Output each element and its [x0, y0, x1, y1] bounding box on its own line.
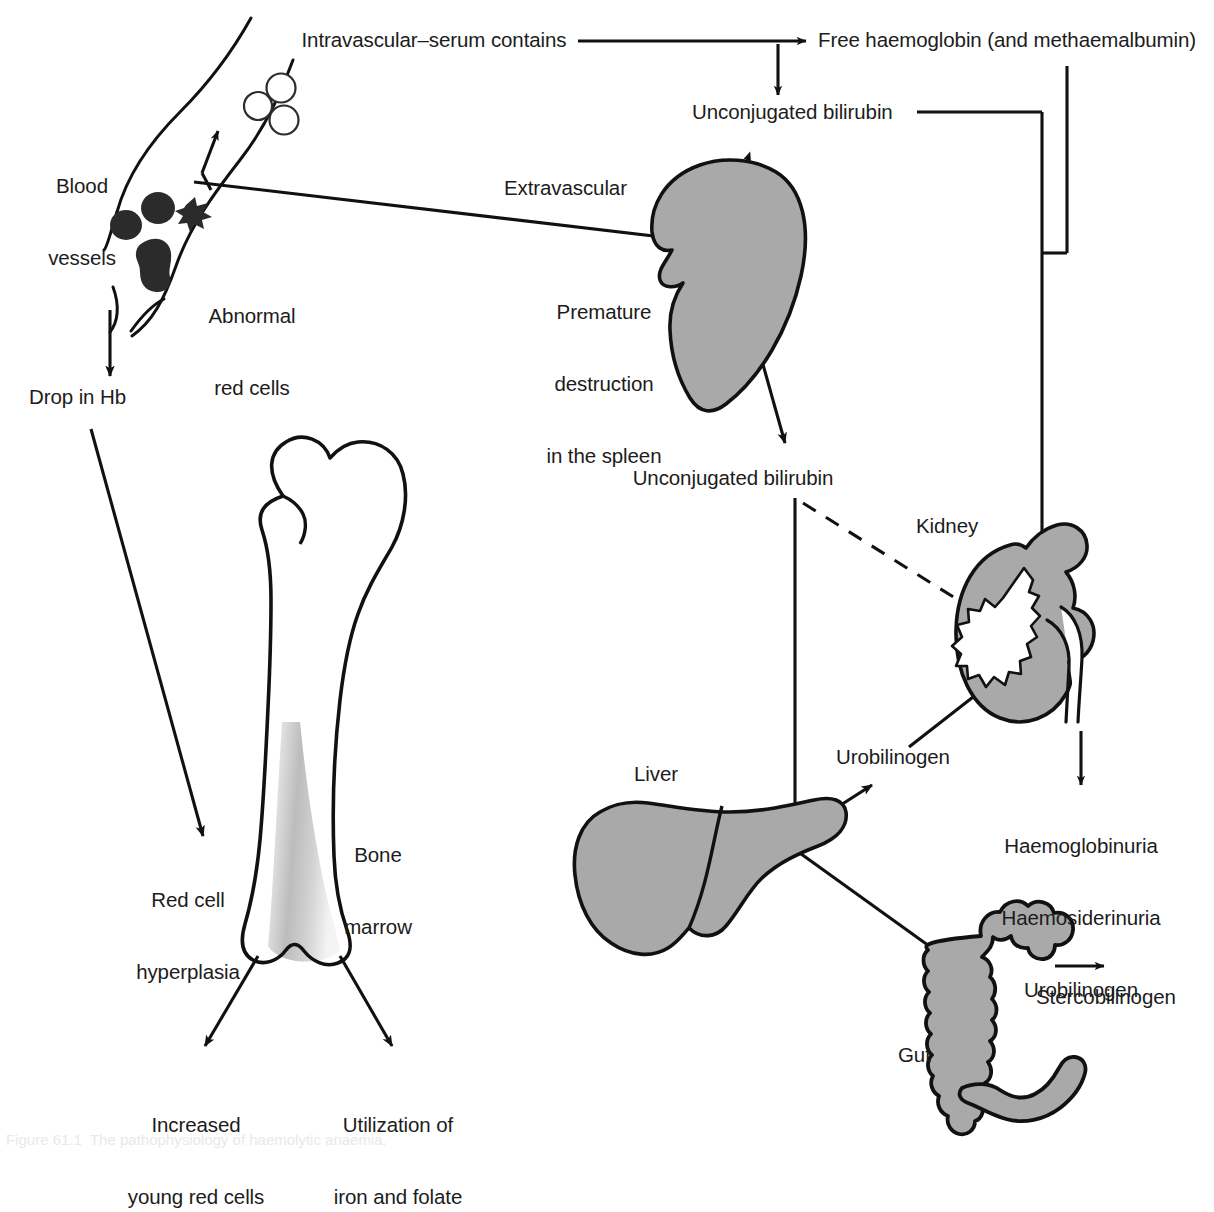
- abnormal-red-cells: [110, 192, 212, 292]
- abnormal-red-cell: [141, 192, 175, 224]
- spleen: [652, 160, 806, 411]
- label-utilization-iron-folate-line2: iron and folate: [334, 1185, 462, 1209]
- label-urobilinogen: Urobilinogen: [836, 745, 950, 769]
- label-red-cell-hyperplasia: Red cell hyperplasia: [136, 840, 240, 1032]
- label-urine-products-line2: Haemosiderinuria: [1001, 906, 1160, 930]
- label-bone-marrow-line2: marrow: [344, 915, 412, 939]
- label-unconjugated-bilirubin-top: Unconjugated bilirubin: [692, 100, 893, 124]
- label-drop-in-hb: Drop in Hb: [29, 385, 126, 409]
- label-blood-vessels-line2: vessels: [48, 246, 116, 270]
- kidney: [952, 524, 1094, 722]
- label-urine-products-line1: Haemoglobinuria: [1001, 834, 1160, 858]
- label-red-cell-hyperplasia-line1: Red cell: [136, 888, 240, 912]
- arrow-hb-to-red-cell-hyperplasia: [91, 429, 203, 836]
- label-urine-products: Haemoglobinuria Haemosiderinuria Urobili…: [1001, 786, 1160, 1050]
- femur-neck-notch: [283, 496, 305, 544]
- label-premature-destruction-line2: destruction: [547, 372, 662, 396]
- label-kidney: Kidney: [916, 514, 978, 538]
- label-blood-vessels: Blood vessels: [48, 126, 116, 318]
- label-premature-destruction-line3: in the spleen: [547, 444, 662, 468]
- arrow-vessel-to-serum: [202, 131, 218, 173]
- label-increased-young-red-cells-line2: young red cells: [128, 1185, 264, 1209]
- label-free-haemoglobin: Free haemoglobin (and methaemalbumin): [818, 28, 1196, 52]
- label-gut: Gut: [898, 1043, 931, 1067]
- abnormal-red-cell-irregular: [136, 239, 171, 292]
- label-intravascular: Intravascular–serum contains: [302, 28, 567, 52]
- figure-caption: Figure 61.1 The pathophysiology of haemo…: [6, 1131, 387, 1148]
- label-bone-marrow-line1: Bone: [344, 843, 412, 867]
- label-blood-vessels-line1: Blood: [48, 174, 116, 198]
- liver-shape: [574, 799, 846, 955]
- pale-red-cell: [270, 106, 299, 135]
- label-extravascular: Extravascular: [504, 176, 627, 200]
- label-red-cell-hyperplasia-line2: hyperplasia: [136, 960, 240, 984]
- label-abnormal-red-cells: Abnormal red cells: [209, 256, 296, 448]
- pale-red-cells: [244, 74, 299, 135]
- pale-red-cell: [267, 74, 296, 103]
- vessel-outline-left: [117, 18, 251, 212]
- label-stercobilinogen: Stercobilinogen: [1036, 985, 1176, 1009]
- label-liver: Liver: [634, 762, 678, 786]
- line-extravascular-to-spleen: [194, 182, 713, 243]
- label-abnormal-red-cells-line1: Abnormal: [209, 304, 296, 328]
- label-bone-marrow: Bone marrow: [344, 795, 412, 987]
- femur-marrow-fill: [268, 722, 340, 962]
- label-abnormal-red-cells-line2: red cells: [209, 376, 296, 400]
- connector-vessel-to-extravascular: [202, 173, 211, 190]
- spleen-shape: [652, 160, 806, 411]
- label-unconjugated-bilirubin-mid: Unconjugated bilirubin: [633, 466, 834, 490]
- label-premature-destruction-line1: Premature: [547, 300, 662, 324]
- liver: [574, 799, 846, 955]
